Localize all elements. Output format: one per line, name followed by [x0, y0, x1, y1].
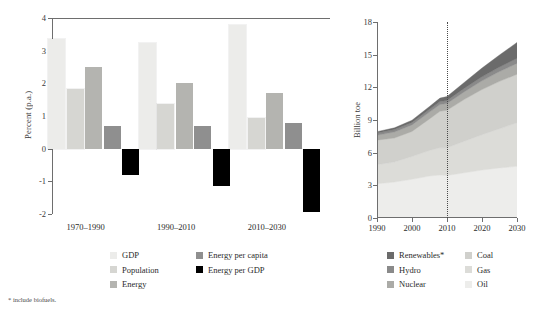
- area-chart-plot-area: 1815129630 19902000201020202030: [377, 22, 517, 218]
- legend-swatch-icon: [387, 281, 394, 288]
- right-x-tick: [482, 218, 483, 222]
- bar-energy-2010–2030: [266, 93, 283, 149]
- right-x-tick-label: 2010: [439, 223, 456, 233]
- bar-gdp-2010–2030: [229, 25, 246, 149]
- legend-swatch-icon: [110, 266, 117, 273]
- legend-label: Hydro: [399, 266, 421, 275]
- legend-item-population[interactable]: Population: [110, 263, 196, 278]
- legend-swatch-icon: [387, 266, 394, 273]
- right-y-tick-label: 3: [368, 180, 372, 190]
- left-chart-legend: GDPEnergy per capitaPopulationEnergy per…: [110, 248, 320, 292]
- bar-population-2010–2030: [248, 118, 265, 149]
- left-group-label: 1970–1990: [66, 222, 104, 232]
- legend-swatch-icon: [465, 252, 472, 259]
- right-y-axis-label: Billion toe: [350, 72, 364, 168]
- right-x-tick-label: 1990: [369, 223, 386, 233]
- legend-item-gas[interactable]: Gas: [465, 263, 537, 278]
- legend-label: Nuclear: [399, 280, 426, 289]
- right-y-tick-label: 9: [368, 115, 372, 125]
- left-x-axis-labels: 1970–19901990–20102010–2030: [52, 222, 324, 236]
- bar-energy-per-capita-1970–1990: [104, 126, 121, 148]
- right-y-tick: [373, 153, 377, 154]
- right-x-tick: [412, 218, 413, 222]
- legend-label: Population: [122, 266, 159, 275]
- legend-item-hydro[interactable]: Hydro: [387, 263, 465, 278]
- legend-item-energy-per-capita[interactable]: Energy per capita: [196, 248, 320, 263]
- right-y-tick-label: 15: [364, 50, 373, 60]
- legend-swatch-icon: [465, 281, 472, 288]
- legend-item-oil[interactable]: Oil: [465, 277, 537, 292]
- right-x-tick: [377, 218, 378, 222]
- right-x-tick: [447, 218, 448, 222]
- right-y-tick: [373, 185, 377, 186]
- right-y-tick: [373, 120, 377, 121]
- bar-energy-per-gdp-1990–2010: [213, 149, 230, 187]
- left-group-label: 2010–2030: [248, 222, 286, 232]
- left-y-tick-label: 1: [42, 111, 46, 121]
- legend-label: Gas: [477, 266, 490, 275]
- left-group-label: 1990–2010: [157, 222, 195, 232]
- bar-chart-plot-area: 43210-1-2: [52, 18, 324, 214]
- legend-label: Energy per GDP: [208, 266, 265, 275]
- bar-energy-1990–2010: [176, 83, 193, 148]
- right-y-tick: [373, 55, 377, 56]
- bar-gdp-1970–1990: [48, 39, 65, 148]
- left-y-tick-label: 2: [42, 78, 46, 88]
- bar-population-1990–2010: [157, 104, 174, 149]
- right-y-tick: [373, 22, 377, 23]
- bar-chart-panel: Percent (p.a.) 43210-1-2 1970–19901990–2…: [0, 0, 345, 313]
- bar-energy-per-gdp-1970–1990: [122, 149, 139, 175]
- legend-item-energy-per-gdp[interactable]: Energy per GDP: [196, 263, 320, 278]
- bar-population-1970–1990: [67, 89, 84, 148]
- legend-label: Renewables*: [399, 251, 444, 260]
- bar-energy-per-capita-2010–2030: [285, 123, 302, 148]
- left-y-tick: [48, 214, 52, 215]
- right-y-tick: [373, 87, 377, 88]
- legend-swatch-icon: [110, 281, 117, 288]
- right-chart-legend: Renewables*CoalHydroGasNuclearOil: [387, 248, 547, 292]
- legend-item-nuclear[interactable]: Nuclear: [387, 277, 465, 292]
- legend-swatch-icon: [196, 252, 203, 259]
- left-y-axis-label: Percent (p.a.): [20, 60, 36, 170]
- legend-swatch-icon: [110, 252, 117, 259]
- legend-label: Energy: [122, 280, 146, 289]
- right-y-tick-label: 18: [364, 17, 373, 27]
- bar-energy-per-capita-1990–2010: [194, 126, 211, 148]
- bar-group-container: [52, 18, 324, 214]
- legend-item-coal[interactable]: Coal: [465, 248, 537, 263]
- legend-swatch-icon: [196, 266, 203, 273]
- legend-item-gdp[interactable]: GDP: [110, 248, 196, 263]
- legend-swatch-icon: [465, 266, 472, 273]
- right-y-axis-line: [377, 22, 378, 218]
- bar-energy-per-gdp-2010–2030: [303, 149, 320, 213]
- left-y-tick-label: 0: [42, 144, 46, 154]
- left-y-tick-label: 3: [42, 46, 46, 56]
- right-x-tick: [517, 218, 518, 222]
- projection-divider-line: [447, 22, 448, 218]
- right-y-tick-label: 12: [364, 82, 373, 92]
- bar-energy-1970–1990: [85, 67, 102, 149]
- right-y-tick-label: 6: [368, 148, 372, 158]
- left-y-tick-label: -1: [39, 176, 46, 186]
- legend-item-renewables-[interactable]: Renewables*: [387, 248, 465, 263]
- legend-label: Oil: [477, 280, 488, 289]
- left-y-tick-label: -2: [39, 209, 46, 219]
- right-x-tick-label: 2020: [474, 223, 491, 233]
- legend-item-energy[interactable]: Energy: [110, 277, 196, 292]
- left-y-tick-label: 4: [42, 13, 46, 23]
- legend-label: GDP: [122, 251, 139, 260]
- legend-swatch-icon: [387, 252, 394, 259]
- right-x-tick-label: 2000: [404, 223, 421, 233]
- figure-root: Percent (p.a.) 43210-1-2 1970–19901990–2…: [0, 0, 549, 313]
- legend-label: Coal: [477, 251, 493, 260]
- figure-footnote: * include biofuels.: [8, 296, 56, 303]
- right-y-tick-label: 0: [368, 213, 372, 223]
- legend-label: Energy per capita: [208, 251, 268, 260]
- bar-gdp-1990–2010: [139, 43, 156, 148]
- area-chart-panel: Billion toe 1815129630 19902000201020202…: [345, 0, 549, 313]
- right-x-tick-label: 2030: [509, 223, 526, 233]
